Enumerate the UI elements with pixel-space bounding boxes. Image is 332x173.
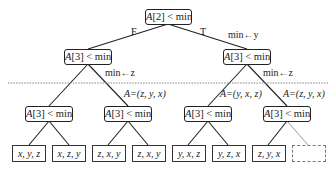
edge-label-min-y: min←y [228, 29, 259, 40]
level3-node-2: A[3] < min [104, 106, 152, 122]
level3-node-1: A[3] < min [25, 106, 73, 122]
level3-node-4: A[3] < min [263, 106, 311, 122]
leaf-5: y, x, z [172, 145, 206, 162]
leaf-4: z, x, y [132, 145, 166, 162]
leaf-2: x, z, y [52, 145, 86, 162]
edge-label-min-z-right: min←z [263, 67, 293, 78]
edge-root-left [88, 24, 168, 49]
edge-label-assign-2: A=(z, y, x) [124, 88, 166, 99]
edge-label-false: F [131, 26, 137, 37]
edge-label-min-z-left: min←z [105, 67, 135, 78]
leaf-8-empty [292, 145, 326, 162]
level2-node-right: A[3] < min [223, 49, 271, 65]
leaf-1: x, y, z [12, 145, 46, 162]
edge-label-assign-4: A=(z, y, x) [283, 88, 325, 99]
edge-l2b-left [208, 64, 247, 106]
level3-node-3: A[3] < min [184, 106, 232, 122]
leaf-7: z, y, x [252, 145, 286, 162]
leaf-3: z, x, y [92, 145, 126, 162]
root-node: A[2] < min [145, 9, 192, 25]
leaf-6: y, z, x [212, 145, 246, 162]
edge-l2a-left [49, 64, 88, 106]
edge-label-assign-3: A=(y, x, z) [220, 88, 262, 99]
level2-node-left: A[3] < min [64, 49, 112, 65]
edge-label-true: T [200, 26, 206, 37]
